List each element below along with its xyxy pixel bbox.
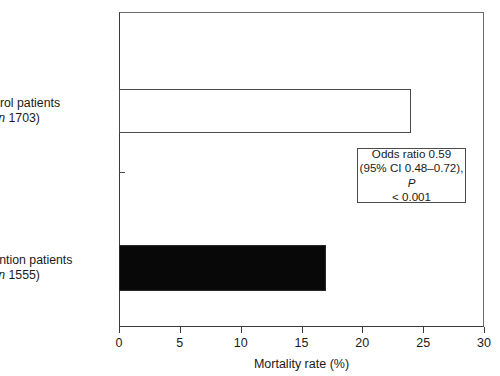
x-axis-tick-15 xyxy=(302,327,303,333)
x-tick-label-10: 10 xyxy=(234,336,248,351)
x-axis-title: Mortality rate (%) xyxy=(119,356,484,372)
mortality-rate-bar-chart: 0 5 10 15 20 25 30 Mortality rate (%) Co… xyxy=(0,0,500,376)
x-tick-label-25: 25 xyxy=(416,336,430,351)
statistics-annotation-box: Odds ratio 0.59 (95% CI 0.48–0.72), P < … xyxy=(357,148,466,203)
x-tick-label-15: 15 xyxy=(295,336,309,351)
category-label-control-patients: Control patients (n 1703) xyxy=(0,96,117,125)
p-italic: P xyxy=(392,176,431,190)
category-label-intervention-line1: Intervention patients xyxy=(0,253,72,267)
x-tick-label-5: 5 xyxy=(176,336,183,351)
x-tick-label-20: 20 xyxy=(355,336,369,351)
x-axis-tick-labels: 0 5 10 15 20 25 30 xyxy=(119,336,484,352)
x-axis-tick-10 xyxy=(241,327,242,333)
n-value: 1555) xyxy=(5,268,40,282)
annotation-confidence-interval: (95% CI 0.48–0.72), xyxy=(360,161,464,175)
x-tick-label-0: 0 xyxy=(116,336,123,351)
category-label-intervention-n: (n 1555) xyxy=(0,268,117,283)
x-tick-label-30: 30 xyxy=(477,336,491,351)
bar-control-patients xyxy=(119,89,411,133)
x-axis-tick-30 xyxy=(484,327,485,333)
y-axis-tick xyxy=(119,172,125,173)
bar-intervention-patients xyxy=(119,245,326,291)
p-value-rest: < 0.001 xyxy=(392,190,431,204)
category-label-intervention-patients: Intervention patients (n 1555) xyxy=(0,253,117,282)
category-label-control-line1: Control patients xyxy=(0,96,60,110)
annotation-odds-ratio: Odds ratio 0.59 xyxy=(372,147,451,161)
x-axis-ticks xyxy=(119,327,484,334)
category-label-control-n: (n 1703) xyxy=(0,111,117,126)
annotation-p-value: P < 0.001 xyxy=(392,176,431,204)
n-value: 1703) xyxy=(5,111,40,125)
x-axis-tick-0 xyxy=(119,327,120,333)
x-axis-tick-25 xyxy=(423,327,424,333)
x-axis-tick-5 xyxy=(180,327,181,333)
x-axis-tick-20 xyxy=(362,327,363,333)
